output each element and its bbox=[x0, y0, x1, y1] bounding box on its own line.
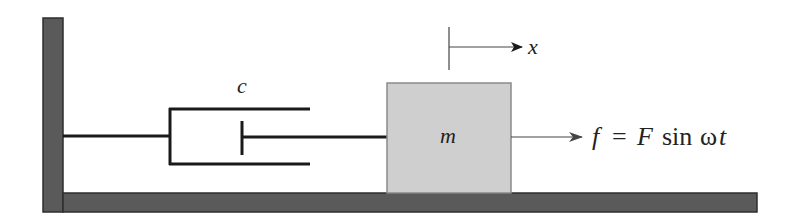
damper-label: c bbox=[237, 73, 247, 98]
damper bbox=[63, 108, 387, 165]
time-symbol: t bbox=[719, 122, 727, 151]
force-equation: f = F sin ω t bbox=[592, 122, 727, 151]
mass-damper-diagram: c m x f = F sin ω t bbox=[0, 0, 792, 223]
displacement-label: x bbox=[527, 34, 538, 59]
fixed-wall bbox=[43, 18, 63, 212]
displacement-arrow bbox=[449, 27, 522, 70]
sin-function: sin bbox=[662, 122, 692, 151]
amplitude-symbol: F bbox=[636, 122, 654, 151]
floor bbox=[63, 193, 757, 212]
mass-label: m bbox=[440, 123, 456, 148]
omega-symbol: ω bbox=[700, 122, 717, 151]
force-symbol: f bbox=[592, 122, 603, 151]
equals-sign: = bbox=[612, 122, 627, 151]
